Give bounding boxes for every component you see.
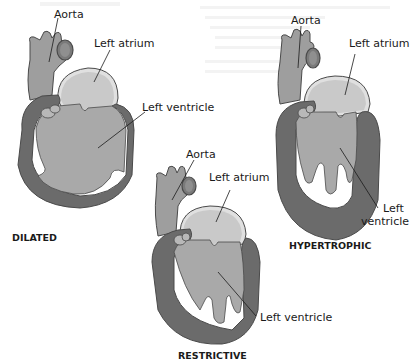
label-left-ventricle: Left ventricle: [260, 311, 332, 324]
label-aorta: Aorta: [291, 14, 321, 27]
label-left-atrium: Left atrium: [94, 37, 155, 50]
cardiomyopathy-diagram: Aorta Left atrium Left ventricle DILATED…: [0, 0, 413, 361]
label-aorta: Aorta: [186, 148, 216, 161]
heart-dilated: Aorta Left atrium Left ventricle DILATED: [12, 8, 214, 243]
heart-hypertrophic: Aorta Left atrium Left ventricle HYPERTR…: [276, 14, 410, 251]
label-aorta: Aorta: [54, 8, 84, 21]
caption-hypertrophic: HYPERTROPHIC: [289, 240, 371, 251]
background-texture: [40, 2, 390, 73]
label-left-atrium: Left atrium: [349, 37, 410, 50]
caption-restrictive: RESTRICTIVE: [178, 350, 247, 361]
label-left-ventricle: Left ventricle: [142, 101, 214, 114]
caption-dilated: DILATED: [12, 232, 57, 243]
label-left-ventricle-line2: ventricle: [361, 215, 409, 228]
label-left-ventricle-line1: Left: [383, 202, 404, 215]
label-left-atrium: Left atrium: [209, 171, 270, 184]
